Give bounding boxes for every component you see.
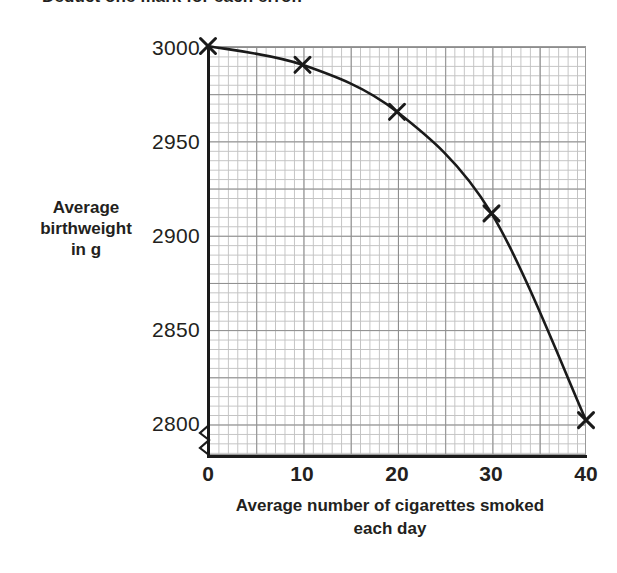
x-tick-20: 20: [367, 462, 427, 486]
chart-page: Deduct one mark for each error. 3000 295…: [0, 0, 617, 573]
x-tick-30: 30: [461, 462, 521, 486]
y-tick-label: 3000: [130, 36, 200, 60]
x-tick-10: 10: [272, 462, 332, 486]
plot-grid-area: [208, 46, 586, 455]
y-tick-label: 2950: [130, 130, 200, 154]
y-tick-2800: 2800: [128, 412, 200, 413]
y-tick-2950: 2950: [128, 130, 200, 131]
y-tick-label: 2800: [130, 412, 200, 436]
y-axis-title-line1: Average: [12, 197, 160, 218]
x-axis-line: [207, 455, 587, 458]
y-tick-2850: 2850: [128, 318, 200, 319]
top-note-text: Deduct one mark for each error.: [42, 0, 462, 7]
y-axis-title: Average birthweight in g: [12, 197, 160, 260]
x-axis-title-line1: Average number of cigarettes smoked: [180, 494, 600, 517]
y-axis-title-line2: birthweight: [12, 218, 160, 239]
x-axis-title-line2: each day: [180, 517, 600, 540]
y-axis-line: [207, 46, 210, 455]
y-tick-label: 2850: [130, 318, 200, 342]
x-tick-40: 40: [556, 462, 616, 486]
y-tick-3000: 3000: [128, 36, 200, 37]
y-axis-title-line3: in g: [12, 239, 160, 260]
x-tick-0: 0: [178, 462, 238, 486]
x-axis-title: Average number of cigarettes smoked each…: [180, 494, 600, 540]
